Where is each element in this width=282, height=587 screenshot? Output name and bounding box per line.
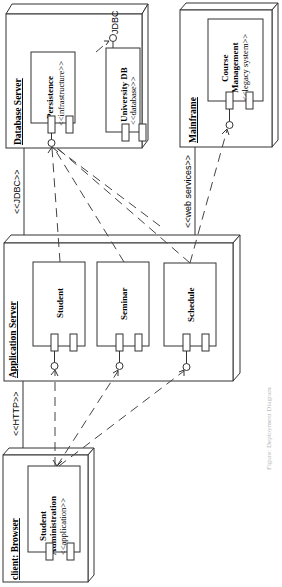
connection-db-app: <<JDBC>> <box>12 148 24 235</box>
connection-label: <<web services>> <box>183 155 193 228</box>
provided-interface-icon <box>116 363 123 370</box>
component-name: Student <box>55 288 65 318</box>
component-port-icon <box>67 543 74 560</box>
node-label-client-browser: client: Browser <box>10 517 20 580</box>
component-stereotype: <<infrastructure>> <box>56 61 66 126</box>
component-port-icon <box>246 92 253 109</box>
component-port-icon <box>183 334 190 351</box>
connection-label: <<HTTP>> <box>11 391 21 436</box>
component-name: Persistence <box>45 76 55 119</box>
component-port-icon <box>70 334 77 351</box>
component-port-icon <box>139 124 146 141</box>
provided-interface-icon <box>51 363 58 370</box>
component-port-icon <box>135 334 142 351</box>
component-port-icon <box>226 92 233 109</box>
provided-interface-icon <box>48 140 55 147</box>
deployment-diagram: Database Server Persistence <<infrastruc… <box>0 0 282 587</box>
component-port-icon <box>51 334 58 351</box>
component-stereotype: <<legacy system>> <box>240 34 250 101</box>
component-port-icon <box>66 116 73 133</box>
node-label-mainframe: Mainframe <box>188 97 198 143</box>
node-label-application-server: Application Server <box>8 300 18 378</box>
component-name: Seminar <box>119 287 129 320</box>
component-name: Schedule <box>186 287 196 322</box>
component-port-icon <box>48 116 55 133</box>
component-stereotype: <<database>> <box>128 76 138 125</box>
component-port-icon <box>116 334 123 351</box>
connection-mainframe-app: <<web services>> <box>183 147 195 235</box>
component-port-icon <box>46 543 53 560</box>
connection-app-client: <<HTTP>> <box>11 380 23 448</box>
figure-caption: Figure: Deployment Diagram <box>265 387 273 470</box>
component-university-db: University DB <<database>> <box>106 48 146 141</box>
interface-label: JDBC <box>110 10 120 34</box>
component-name: Student <box>38 511 48 541</box>
jdbc-interface-icon <box>110 35 117 42</box>
connection-label: <<JDBC>> <box>12 169 22 214</box>
node-label-database-server: Database Server <box>13 77 23 145</box>
component-name: Course <box>220 54 230 82</box>
component-port-icon <box>202 334 209 351</box>
component-name: Management <box>230 43 240 94</box>
component-student-administration: Student Administration <<application>> <box>28 466 80 560</box>
component-port-icon <box>122 124 129 141</box>
provided-interface-icon <box>226 122 233 129</box>
